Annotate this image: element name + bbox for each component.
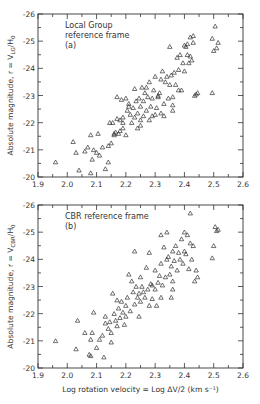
triangle-marker [106,160,110,164]
triangle-marker [188,211,192,215]
triangle-marker [108,320,112,324]
triangle-marker [159,295,163,299]
triangle-marker [141,114,145,118]
triangle-marker [115,298,119,302]
triangle-marker [172,259,176,263]
triangle-marker [110,291,114,295]
triangle-marker [156,280,160,284]
triangle-marker [181,61,185,65]
triangle-marker [213,225,217,229]
triangle-marker [210,256,214,260]
triangle-marker [153,287,157,291]
triangle-marker [173,83,177,87]
x-tick-label: 2.0 [61,180,73,189]
triangle-marker [153,268,157,272]
triangle-marker [178,257,182,261]
triangle-marker [212,49,216,53]
triangle-marker [169,73,173,77]
x-tick-label: 2.0 [61,371,73,380]
triangle-marker [162,245,166,249]
triangle-marker [144,265,148,269]
triangle-marker [143,295,147,299]
triangle-marker [171,249,175,253]
x-axis-label: Log rotation velocity = Log ΔV/2 (km s⁻¹… [62,385,218,394]
triangle-marker [171,279,175,283]
triangle-marker [90,157,94,161]
triangle-marker [119,299,123,303]
triangle-marker [115,95,119,99]
x-tick-label: 2.1 [91,180,103,189]
triangle-marker [210,36,214,40]
triangle-marker [157,274,161,278]
y-tick-label: -21 [23,337,35,346]
triangle-marker [141,290,145,294]
y-tick-label: -26 [23,10,35,19]
triangle-marker [71,140,75,144]
triangle-marker [115,324,119,328]
triangle-marker [137,291,141,295]
triangle-marker [144,85,148,89]
triangle-marker [165,74,169,78]
x-tick-label: 2.6 [237,180,249,189]
triangle-marker [89,354,93,358]
triangle-marker [106,144,110,148]
triangle-marker [163,80,167,84]
triangle-marker [149,104,153,108]
triangle-marker [97,337,101,341]
triangle-marker [124,303,128,307]
triangle-marker [97,153,101,157]
triangle-marker [160,283,164,287]
x-tick-label: 2.5 [208,371,220,380]
triangle-marker [169,295,173,299]
figure: 1.92.02.12.22.32.42.52.6-20-21-22-23-24-… [0,0,260,404]
x-tick-label: 2.3 [149,371,161,380]
triangle-marker [173,244,177,248]
triangle-marker [116,306,120,310]
triangle-marker [159,261,163,265]
triangle-marker [159,233,163,237]
triangle-marker [121,121,125,125]
triangle-marker [166,255,170,259]
x-tick-label: 2.4 [178,180,190,189]
triangle-marker [190,257,194,261]
triangle-marker [188,241,192,245]
triangle-marker [150,96,154,100]
triangle-marker [190,58,194,62]
triangle-marker [179,237,183,241]
triangle-marker [121,115,125,119]
triangle-marker [176,250,180,254]
triangle-marker [162,102,166,106]
triangle-marker [182,69,186,73]
triangle-marker [125,295,129,299]
triangle-marker [138,104,142,108]
triangle-marker [89,171,93,175]
triangle-marker [212,244,216,248]
triangle-marker [144,108,148,112]
triangle-marker [178,53,182,57]
triangle-marker [89,337,93,341]
triangle-marker [138,275,142,279]
triangle-marker [171,287,175,291]
triangle-marker [213,24,217,28]
triangle-marker [132,249,136,253]
triangle-marker [154,106,158,110]
x-tick-label: 2.1 [91,371,103,380]
triangle-marker [106,327,110,331]
y-tick-label: -22 [23,119,35,128]
triangle-marker [118,129,122,133]
triangle-marker [159,77,163,81]
triangle-marker [171,103,175,107]
triangle-marker [90,331,94,335]
triangle-marker [100,333,104,337]
triangle-marker [132,115,136,119]
data-points [53,24,220,175]
x-tick-label: 2.6 [237,371,249,380]
triangle-marker [113,318,117,322]
triangle-marker [166,96,170,100]
panel-annotation: CBR reference frame [65,212,149,221]
y-tick-label: -26 [23,201,35,210]
panel-annotation: Local Group [65,21,113,30]
triangle-marker [134,99,138,103]
triangle-marker [150,297,154,301]
triangle-marker [135,111,139,115]
